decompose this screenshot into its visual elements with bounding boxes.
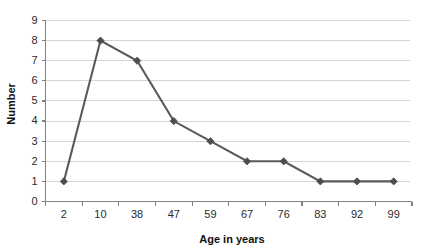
y-tick-label: 5 <box>31 94 37 106</box>
y-axis-title: Number <box>5 83 17 125</box>
y-tick-label: 0 <box>31 195 37 207</box>
y-tick-label: 1 <box>31 175 37 187</box>
x-tick-label: 10 <box>94 208 106 220</box>
y-tick-label: 8 <box>31 34 37 46</box>
y-tick-label: 7 <box>31 54 37 66</box>
x-tick-label: 99 <box>388 208 400 220</box>
x-tick-label: 83 <box>314 208 326 220</box>
y-tick-label: 2 <box>31 155 37 167</box>
x-axis-title: Age in years <box>199 233 264 245</box>
x-tick-label: 2 <box>61 208 67 220</box>
y-tick-label: 3 <box>31 135 37 147</box>
x-tick-label: 76 <box>278 208 290 220</box>
y-tick-label: 6 <box>31 74 37 86</box>
y-tick-label: 4 <box>31 114 37 126</box>
line-chart: 0123456789 2103847596776839299 Age in ye… <box>0 0 424 250</box>
x-tick-label: 59 <box>204 208 216 220</box>
chart-canvas: 0123456789 2103847596776839299 Age in ye… <box>0 0 424 250</box>
x-tick-label: 47 <box>168 208 180 220</box>
x-tick-label: 67 <box>241 208 253 220</box>
x-tick-label: 92 <box>351 208 363 220</box>
y-tick-label: 9 <box>31 14 37 26</box>
x-tick-label: 38 <box>131 208 143 220</box>
